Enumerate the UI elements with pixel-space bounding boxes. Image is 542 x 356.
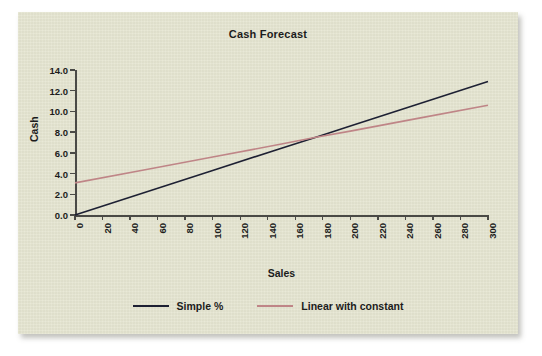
legend-item-2[interactable]: Linear with constant [257,300,403,312]
y-axis-tick-label: 2.0 [55,189,68,200]
x-axis-tick-label: 60 [156,223,167,234]
x-axis-tick [240,215,241,220]
x-axis-tick-label: 0 [74,223,85,228]
legend-label: Linear with constant [301,300,403,312]
x-axis-tick [377,215,378,220]
x-axis-tick [322,215,323,220]
series-lines [75,70,488,215]
x-axis-line [75,215,488,217]
y-axis-title: Cash [28,116,40,142]
x-axis-tick-label: 200 [349,223,360,239]
x-axis-tick-label: 280 [459,223,470,239]
y-axis-tick-label: 6.0 [55,147,68,158]
chart-legend: Simple %Linear with constant [18,300,518,312]
x-axis-tick [487,215,488,220]
chart-screenshot: Cash Forecast Cash 0.02.04.06.08.010.012… [0,0,542,356]
series-line-2 [75,105,488,183]
x-axis-tick [432,215,433,220]
x-axis-tick-label: 20 [101,223,112,234]
x-axis-tick [460,215,461,220]
y-axis-tick-label: 8.0 [55,127,68,138]
x-axis-title: Sales [75,267,488,279]
chart-title: Cash Forecast [18,28,518,40]
y-axis-tick-label: 4.0 [55,168,68,179]
plot-area: 0.02.04.06.08.010.012.014.0 020406080100… [75,70,488,215]
y-axis-tick-label: 10.0 [50,106,69,117]
x-axis-tick [74,215,75,220]
x-axis-tick [212,215,213,220]
x-axis-tick-label: 80 [184,223,195,234]
x-axis-tick-label: 180 [321,223,332,239]
legend-swatch-icon [257,305,293,307]
x-axis-tick-label: 220 [376,223,387,239]
x-axis-tick-label: 140 [266,223,277,239]
x-axis-tick-label: 100 [211,223,222,239]
x-axis-tick [102,215,103,220]
legend-item-1[interactable]: Simple % [133,300,224,312]
y-axis-tick-label: 0.0 [55,210,68,221]
chart-panel: Cash Forecast Cash 0.02.04.06.08.010.012… [18,12,518,334]
legend-label: Simple % [177,300,224,312]
x-axis-tick-label: 120 [239,223,250,239]
x-axis-tick-label: 300 [487,223,498,239]
series-line-1 [75,81,488,215]
x-axis-tick [350,215,351,220]
x-axis-tick-label: 40 [129,223,140,234]
x-axis-tick [157,215,158,220]
x-axis-tick [267,215,268,220]
x-axis-tick [405,215,406,220]
y-axis-tick-label: 12.0 [50,85,69,96]
legend-swatch-icon [133,305,169,307]
x-axis-tick [129,215,130,220]
x-axis-tick-label: 260 [431,223,442,239]
x-axis-tick [295,215,296,220]
x-axis-tick-label: 160 [294,223,305,239]
x-axis-tick [184,215,185,220]
y-axis-tick-label: 14.0 [50,65,69,76]
x-axis-tick-label: 240 [404,223,415,239]
